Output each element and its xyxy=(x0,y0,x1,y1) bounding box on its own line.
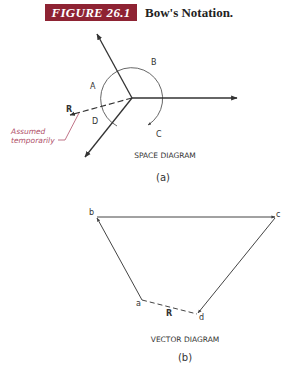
point-label-a: a xyxy=(136,299,141,308)
force-line-lower xyxy=(85,98,132,157)
resultant-label-space: R xyxy=(66,105,72,114)
point-label-c: c xyxy=(276,210,280,219)
annotation-leader-line xyxy=(58,113,79,140)
annotation-line2: temporarily xyxy=(11,136,55,145)
resultant-label-vector: R xyxy=(166,309,172,318)
vector-diagram-sublabel: (b) xyxy=(178,352,192,363)
point-label-d: d xyxy=(199,313,204,322)
bows-notation-diagram: A B C D R Assumed temporarily SPACE DIAG… xyxy=(0,0,294,366)
space-diagram-caption: SPACE DIAGRAM xyxy=(134,151,195,160)
region-label-b: B xyxy=(151,58,157,67)
vector-diagram: b c a d R VECTOR DIAGRAM (b) xyxy=(89,208,280,363)
vector-diagram-caption: VECTOR DIAGRAM xyxy=(151,335,220,344)
point-label-b: b xyxy=(89,208,94,217)
region-label-a: A xyxy=(90,82,96,91)
annotation-line1: Assumed xyxy=(10,127,46,136)
space-diagram: A B C D R Assumed temporarily SPACE DIAG… xyxy=(10,34,237,183)
vector-cd xyxy=(198,218,275,313)
region-label-d: D xyxy=(92,117,98,126)
vector-ab xyxy=(97,218,142,300)
region-label-c: C xyxy=(156,130,162,139)
space-diagram-sublabel: (a) xyxy=(156,172,170,183)
